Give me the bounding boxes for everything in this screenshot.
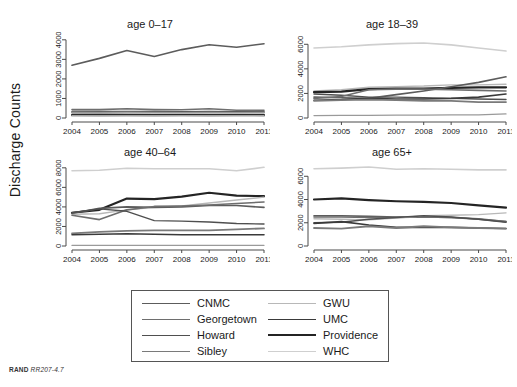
svg-text:2011: 2011 <box>497 255 512 264</box>
legend-item-label: CNMC <box>197 297 230 309</box>
panel-age-65-plus: age 65+ 02000400060002004200520062007200… <box>272 146 512 268</box>
footer-brand: RAND <box>9 366 29 373</box>
figure-source-note: RAND RR207-4.7 <box>9 366 64 373</box>
legend-item[interactable]: WHC <box>268 343 378 359</box>
svg-text:6000: 6000 <box>296 36 305 53</box>
svg-text:2005: 2005 <box>91 255 109 264</box>
svg-text:2010: 2010 <box>228 127 246 136</box>
panel-plot: 0200040006000200420052006200720082009201… <box>272 18 512 140</box>
legend-swatch-line <box>268 334 316 336</box>
legend-item-label: Howard <box>197 329 235 341</box>
legend-swatch-line <box>142 303 190 304</box>
svg-text:4000: 4000 <box>296 61 305 78</box>
svg-text:2009: 2009 <box>442 127 460 136</box>
svg-text:2010: 2010 <box>228 255 246 264</box>
svg-text:0: 0 <box>54 116 63 120</box>
svg-text:2004: 2004 <box>305 127 323 136</box>
svg-text:2008: 2008 <box>415 127 433 136</box>
legend-item[interactable]: Providence <box>268 327 378 343</box>
legend-item[interactable]: UMC <box>268 311 378 327</box>
svg-text:2005: 2005 <box>91 127 109 136</box>
legend-item-label: Georgetown <box>197 313 257 325</box>
svg-text:2008: 2008 <box>173 255 191 264</box>
legend-item-label: Providence <box>323 329 378 341</box>
panel-age-40-64: age 40–64 020004000600080002004200520062… <box>30 146 270 268</box>
svg-text:2009: 2009 <box>200 127 218 136</box>
svg-text:0: 0 <box>54 244 63 248</box>
legend-item[interactable]: GWU <box>268 295 378 311</box>
svg-text:0: 0 <box>296 116 305 120</box>
legend-swatch-line <box>268 303 316 304</box>
svg-text:2006: 2006 <box>360 255 378 264</box>
panel-title: age 40–64 <box>30 146 270 158</box>
legend-item-label: UMC <box>323 313 348 325</box>
panel-plot: 0100020003000400020042005200620072008200… <box>30 18 270 140</box>
svg-text:2004: 2004 <box>63 255 81 264</box>
y-axis-label-text: Discharge Counts <box>7 83 23 197</box>
svg-text:2010: 2010 <box>470 255 488 264</box>
legend-column-left: CNMCGeorgetownHowardSibley <box>142 295 257 359</box>
legend-item[interactable]: Sibley <box>142 343 257 359</box>
panel-plot: 0200040006000200420052006200720082009201… <box>272 146 512 268</box>
panel-age-0-17: age 0–17 0100020003000400020042005200620… <box>30 18 270 140</box>
svg-text:2011: 2011 <box>497 127 512 136</box>
legend-item-label: WHC <box>323 345 349 357</box>
legend-swatch-line <box>268 351 316 352</box>
figure-root: Discharge Counts age 0–17 01000200030004… <box>0 0 517 387</box>
svg-text:2007: 2007 <box>145 255 163 264</box>
legend-item-label: Sibley <box>197 345 227 357</box>
legend-item[interactable]: CNMC <box>142 295 257 311</box>
svg-text:2000: 2000 <box>296 85 305 102</box>
svg-text:1000: 1000 <box>54 90 63 107</box>
svg-text:2006: 2006 <box>118 127 136 136</box>
panel-title: age 18–39 <box>272 18 512 30</box>
y-axis-label: Discharge Counts <box>0 0 30 280</box>
svg-text:2009: 2009 <box>442 255 460 264</box>
svg-text:2011: 2011 <box>255 127 270 136</box>
svg-text:2010: 2010 <box>470 127 488 136</box>
svg-text:2009: 2009 <box>200 255 218 264</box>
svg-text:2006: 2006 <box>360 127 378 136</box>
svg-text:3000: 3000 <box>54 51 63 68</box>
svg-text:2004: 2004 <box>305 255 323 264</box>
svg-text:4000: 4000 <box>296 191 305 208</box>
panel-plot: 0200040006000800020042005200620072008200… <box>30 146 270 268</box>
legend-swatch-line <box>268 319 316 320</box>
svg-text:2007: 2007 <box>145 127 163 136</box>
svg-text:2011: 2011 <box>255 255 270 264</box>
svg-text:2008: 2008 <box>173 127 191 136</box>
svg-text:0: 0 <box>296 244 305 248</box>
legend-swatch-line <box>142 319 190 320</box>
svg-text:2008: 2008 <box>415 255 433 264</box>
legend: CNMCGeorgetownHowardSibley GWUUMCProvide… <box>131 290 389 362</box>
panel-title: age 0–17 <box>30 18 270 30</box>
svg-text:2005: 2005 <box>333 255 351 264</box>
panel-age-18-39: age 18–39 020004000600020042005200620072… <box>272 18 512 140</box>
legend-item[interactable]: Georgetown <box>142 311 257 327</box>
svg-text:6000: 6000 <box>54 179 63 196</box>
legend-swatch-line <box>142 335 190 336</box>
svg-text:2007: 2007 <box>387 127 405 136</box>
legend-item-label: GWU <box>323 297 350 309</box>
legend-swatch-line <box>142 351 190 352</box>
svg-text:2006: 2006 <box>118 255 136 264</box>
legend-item[interactable]: Howard <box>142 327 257 343</box>
svg-text:4000: 4000 <box>54 199 63 216</box>
panel-title: age 65+ <box>272 146 512 158</box>
svg-text:2000: 2000 <box>54 218 63 235</box>
svg-text:2007: 2007 <box>387 255 405 264</box>
legend-column-right: GWUUMCProvidenceWHC <box>268 295 378 359</box>
svg-text:4000: 4000 <box>54 31 63 48</box>
svg-text:2000: 2000 <box>296 214 305 231</box>
svg-text:2005: 2005 <box>333 127 351 136</box>
svg-text:6000: 6000 <box>296 168 305 185</box>
svg-text:2004: 2004 <box>63 127 81 136</box>
svg-text:8000: 8000 <box>54 159 63 176</box>
svg-text:2000: 2000 <box>54 71 63 88</box>
footer-id: RR207-4.7 <box>31 366 64 373</box>
